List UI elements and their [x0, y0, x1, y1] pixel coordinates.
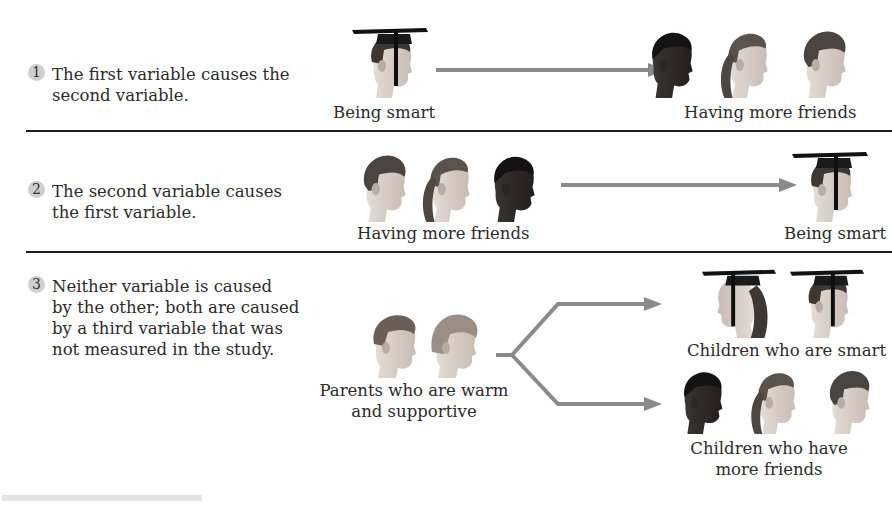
friends-group-icon — [640, 26, 860, 100]
graduate-head-icon — [790, 144, 870, 224]
effect-label-line: more friends — [684, 459, 854, 480]
divider-1 — [26, 130, 892, 132]
graduate-children-icon — [700, 262, 870, 340]
item-3-text-line: by a third variable that was — [52, 318, 299, 339]
item-3-description: 3 Neither variable is caused by the othe… — [28, 276, 299, 360]
item-3-effect-bottom-label: Children who have more friends — [684, 438, 854, 480]
item-1-text-line: second variable. — [52, 85, 290, 106]
item-2-effect-label: Being smart — [784, 224, 886, 243]
parents-pair-icon — [364, 307, 488, 381]
item-1-number-badge: 1 — [28, 64, 45, 81]
item-2-number-badge: 2 — [28, 181, 45, 198]
item-3-cause-label: Parents who are warm and supportive — [318, 380, 510, 422]
divider-2 — [26, 251, 892, 253]
item-2-description: 2 The second variable causes the first v… — [28, 181, 282, 223]
item-2-text-line: The second variable causes — [52, 181, 282, 202]
item-2-text-line: the first variable. — [52, 202, 282, 223]
item-3-effect-top-label: Children who are smart — [687, 341, 886, 360]
item-2-arrow — [561, 177, 797, 193]
item-1-arrow — [436, 62, 666, 78]
friends-group-icon — [352, 150, 562, 224]
item-3-text-line: by the other; both are caused — [52, 297, 299, 318]
item-3-number-badge: 3 — [28, 276, 45, 293]
item-1-description: 1 The first variable causes the second v… — [28, 64, 290, 106]
item-1-cause-label: Being smart — [333, 103, 435, 122]
item-1-effect-label: Having more friends — [684, 103, 856, 122]
item-2-cause-label: Having more friends — [357, 224, 529, 243]
friends-group-icon — [672, 366, 882, 436]
branching-arrow — [496, 296, 666, 416]
item-3-text-line: Neither variable is caused — [52, 276, 299, 297]
item-3-text-line: not measured in the study. — [52, 339, 299, 360]
graduate-head-icon — [350, 20, 430, 100]
copyright-mark — [2, 495, 202, 501]
cause-label-line: and supportive — [318, 401, 510, 422]
cause-label-line: Parents who are warm — [318, 380, 510, 401]
item-1-text-line: The first variable causes the — [52, 64, 290, 85]
effect-label-line: Children who have — [684, 438, 854, 459]
